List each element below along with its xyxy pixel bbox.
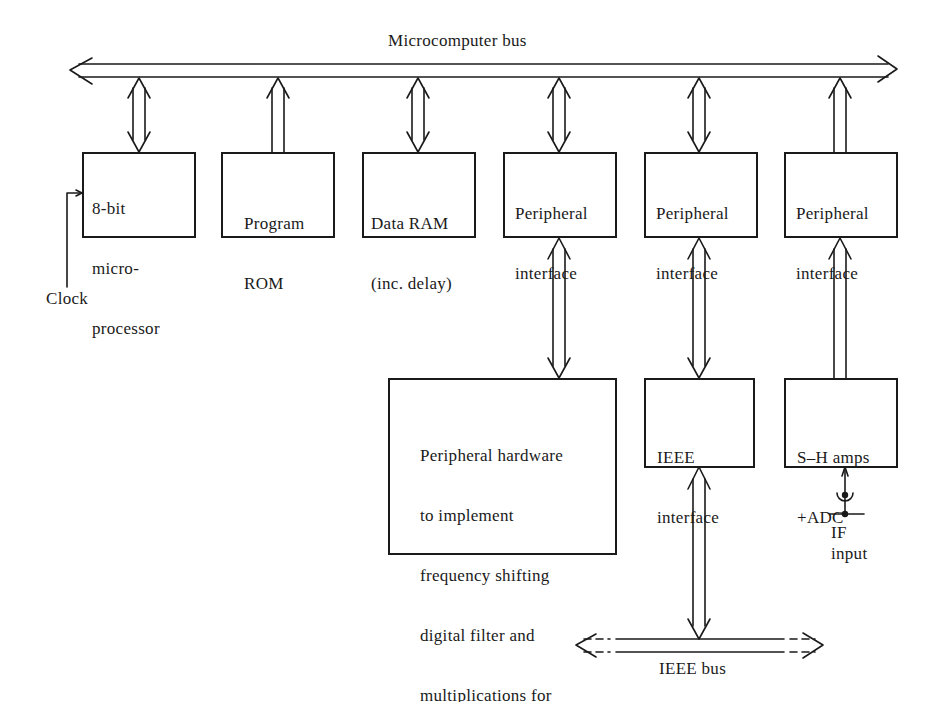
pi3-bus-arrow	[829, 78, 851, 152]
block-line: S–H amps	[797, 448, 870, 468]
block-line: interface	[657, 508, 719, 528]
block-sh-amps-adc: S–H amps +ADC	[784, 378, 898, 468]
block-line: Data RAM	[371, 214, 452, 234]
block-peripheral-interface-2: Peripheral interface	[644, 152, 758, 238]
block-line: Program	[244, 214, 305, 234]
block-line: frequency shifting	[420, 566, 563, 586]
rom-bus-arrow	[267, 78, 289, 152]
block-data-ram: Data RAM (inc. delay)	[362, 152, 476, 238]
block-peripheral-interface-3: Peripheral interface	[784, 152, 898, 238]
clock-line	[67, 190, 82, 287]
block-peripheral-interface-1: Peripheral interface	[503, 152, 617, 238]
block-line: interface	[515, 264, 588, 284]
block-line: IEEE	[657, 448, 719, 468]
block-line: 8-bit	[92, 199, 160, 219]
block-peripheral-hardware: Peripheral hardware to implement frequen…	[388, 378, 617, 555]
block-8bit-microprocessor: 8-bit micro- processor	[82, 152, 196, 238]
block-line: digital filter and	[420, 626, 563, 646]
pi1-bus-arrow	[548, 78, 570, 152]
cpu-bus-arrow	[128, 78, 150, 152]
block-line: interface	[796, 264, 869, 284]
if-input-label-line1: IF	[831, 523, 847, 543]
microcomputer-bus-label: Microcomputer bus	[388, 31, 527, 51]
block-line: interface	[656, 264, 729, 284]
block-line: processor	[92, 319, 160, 339]
ieee-bus-label: IEEE bus	[659, 659, 726, 679]
if-input-label-line2: input	[831, 544, 867, 564]
ram-bus-arrow	[407, 78, 429, 152]
block-line: micro-	[92, 259, 160, 279]
block-line: to implement	[420, 506, 563, 526]
pi2-bus-arrow	[688, 78, 710, 152]
clock-label: Clock	[46, 289, 88, 309]
block-line: multiplications for	[420, 686, 563, 702]
block-line: Peripheral	[656, 204, 729, 224]
block-line: (inc. delay)	[371, 274, 452, 294]
block-line: Peripheral	[796, 204, 869, 224]
block-ieee-interface: IEEE interface	[644, 378, 755, 468]
block-line: Peripheral	[515, 204, 588, 224]
block-line: ROM	[244, 274, 305, 294]
microcomputer-bus	[70, 56, 897, 84]
block-program-rom: Program ROM	[221, 152, 335, 238]
block-line: Peripheral hardware	[420, 446, 563, 466]
